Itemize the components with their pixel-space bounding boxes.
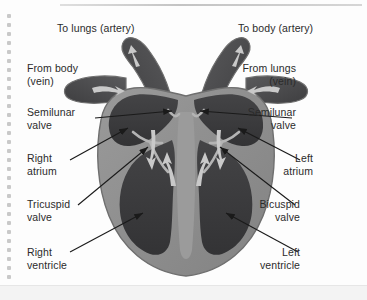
label-to-body-artery: To body (artery) (238, 22, 313, 35)
heart-chambers (109, 94, 263, 259)
label-left-ventricle: Left ventricle (260, 246, 300, 271)
label-bicuspid-valve: Bicuspid valve (260, 198, 301, 223)
label-right-ventricle: Right ventricle (27, 246, 67, 271)
heart-diagram: To lungs (artery)To body (artery)From bo… (0, 0, 367, 300)
label-from-body-vein: From body (vein) (27, 62, 78, 87)
label-from-lungs-vein: From lungs (vein) (242, 62, 296, 87)
label-tricuspid-valve: Tricuspid valve (27, 198, 70, 223)
page-canvas: To lungs (artery)To body (artery)From bo… (0, 0, 367, 300)
label-to-lungs-artery: To lungs (artery) (57, 22, 135, 35)
label-semilunar-valve-left: Semilunar valve (27, 106, 75, 131)
label-left-atrium: Left atrium (283, 152, 313, 177)
page-bottom-band (0, 285, 367, 300)
label-semilunar-valve-right: Semilunar valve (248, 106, 296, 131)
label-right-atrium: Right atrium (27, 152, 57, 177)
interventricular-septum (177, 112, 195, 259)
